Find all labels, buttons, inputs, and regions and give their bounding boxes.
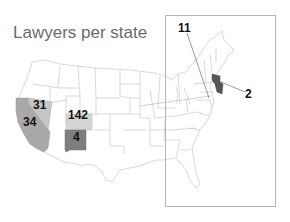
label-colorado: 142: [68, 109, 88, 121]
label-nevada: 31: [33, 99, 46, 111]
label-delaware-maryland: 11: [178, 22, 191, 34]
map-title: Lawyers per state: [13, 23, 147, 43]
label-new-mexico: 4: [73, 131, 80, 143]
northeast-inset-box: [165, 15, 276, 207]
label-california: 34: [23, 116, 36, 128]
label-new-jersey: 2: [245, 88, 252, 100]
